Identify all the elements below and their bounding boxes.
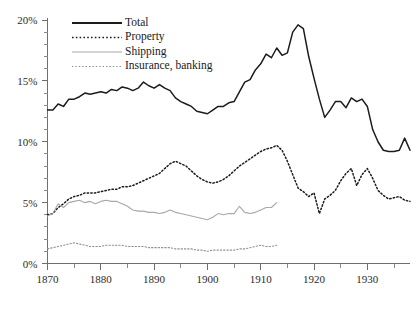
axes: 0%5%10%15%20%187018801890190019101920193… [17,14,410,285]
series-line-property [48,145,411,214]
x-axis-tick-label: 1890 [143,273,166,285]
series-line-insurance-banking [48,243,277,252]
series-lines [48,25,411,251]
y-axis-tick-label: 15% [17,75,37,87]
legend-label: Insurance, banking [125,59,213,72]
x-axis-tick-label: 1880 [90,273,113,285]
legend-item-total: Total [72,16,148,28]
x-axis-tick-label: 1870 [37,273,60,285]
x-axis-tick-label: 1900 [196,273,219,285]
y-axis-tick-label: 0% [23,258,38,270]
series-line-total [48,25,411,152]
legend-item-insurance-banking: Insurance, banking [72,59,213,72]
legend-item-property: Property [72,30,165,43]
x-axis-tick-label: 1910 [250,273,273,285]
chart-container: 0%5%10%15%20%187018801890190019101920193… [0,0,416,313]
legend-label: Shipping [125,45,167,58]
legend-item-shipping: Shipping [72,45,167,58]
x-axis-tick-label: 1930 [356,273,379,285]
y-axis-tick-label: 10% [17,136,37,148]
legend-label: Property [125,30,165,43]
legend-label: Total [125,16,148,28]
y-axis-tick-label: 20% [17,14,37,26]
line-chart: 0%5%10%15%20%187018801890190019101920193… [0,0,416,313]
chart-legend: TotalPropertyShippingInsurance, banking [72,16,213,73]
series-line-shipping [48,200,277,219]
x-axis-tick-label: 1920 [303,273,326,285]
y-axis-tick-label: 5% [23,197,38,209]
